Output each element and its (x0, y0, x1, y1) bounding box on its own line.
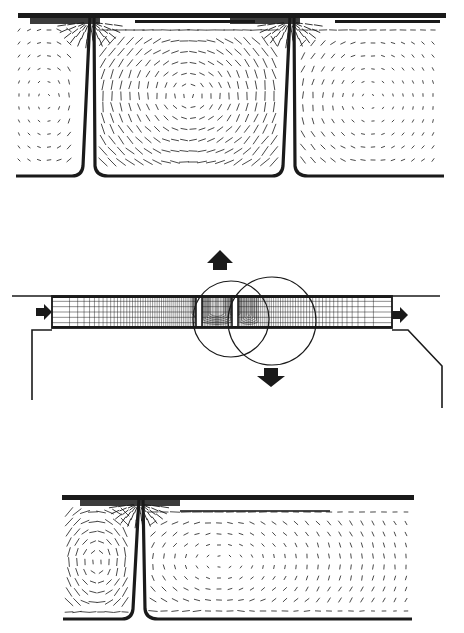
velocity-vector (250, 611, 255, 612)
velocity-vector (332, 80, 334, 84)
velocity-vector (301, 66, 304, 72)
velocity-vector (206, 577, 209, 578)
velocity-vector (181, 63, 187, 64)
velocity-vector (237, 82, 238, 89)
velocity-vector (98, 591, 105, 593)
velocity-vector (135, 159, 143, 165)
velocity-vector (234, 159, 242, 165)
velocity-vector (383, 576, 384, 580)
velocity-vector (117, 558, 118, 565)
velocity-vector (306, 576, 307, 580)
velocity-vector (244, 136, 250, 143)
velocity-vector (254, 59, 258, 67)
velocity-vector (331, 158, 336, 162)
velocity-vector (312, 79, 314, 84)
velocity-vector (301, 53, 304, 60)
velocity-vector (197, 161, 206, 163)
velocity-vector (182, 84, 185, 86)
velocity-vector (199, 51, 206, 53)
velocity-vector (106, 590, 112, 594)
velocity-vector (218, 72, 221, 77)
velocity-vector (173, 587, 177, 590)
velocity-vector (173, 106, 176, 109)
velocity-vector (339, 598, 342, 602)
velocity-vector (149, 611, 157, 612)
velocity-vector (283, 522, 287, 525)
velocity-vector (412, 42, 415, 44)
velocity-vector (273, 102, 274, 112)
velocity-vector (140, 508, 141, 514)
velocity-vector (38, 120, 40, 121)
velocity-vector (138, 104, 141, 110)
velocity-vector (261, 158, 270, 165)
velocity-vector (111, 81, 113, 90)
velocity-vector (68, 119, 69, 123)
velocity-vector (73, 611, 81, 612)
velocity-vector (342, 106, 343, 109)
velocity-vector (284, 543, 286, 546)
velocity-vector (67, 145, 70, 149)
velocity-vector (145, 137, 151, 142)
velocity-vector (263, 59, 267, 68)
velocity-vector (239, 588, 243, 590)
velocity-vector (351, 42, 355, 44)
cavity-mesh-loop (248, 298, 250, 317)
velocity-vector (402, 120, 403, 122)
velocity-vector (362, 576, 363, 580)
velocity-vector (432, 133, 433, 136)
velocity-vector (343, 93, 344, 96)
velocity-vector (72, 29, 77, 33)
velocity-vector (101, 124, 104, 134)
velocity-vector (311, 53, 315, 58)
bottom-vector-field-panel (62, 495, 414, 619)
velocity-vector (383, 532, 385, 536)
velocity-vector (285, 26, 287, 32)
velocity-vector (77, 558, 78, 565)
velocity-vector (206, 161, 215, 163)
velocity-vector (332, 119, 334, 123)
velocity-vector (208, 138, 215, 141)
velocity-vector (156, 514, 162, 519)
velocity-vector (98, 541, 103, 543)
velocity-vector (123, 538, 128, 546)
velocity-vector (333, 93, 334, 97)
velocity-vector (76, 568, 78, 575)
velocity-vector (58, 133, 61, 135)
velocity-vector (37, 29, 40, 30)
velocity-vector (234, 148, 242, 153)
velocity-vector (90, 591, 97, 593)
velocity-vector (153, 149, 161, 153)
velocity-vector (119, 70, 122, 78)
velocity-vector (107, 580, 112, 585)
velocity-vector (422, 42, 425, 44)
velocity-vector (100, 48, 107, 56)
velocity-vector (193, 610, 201, 611)
velocity-vector (384, 554, 385, 558)
velocity-vector (251, 555, 252, 557)
top-wall (62, 495, 414, 500)
velocity-vector (331, 145, 335, 148)
velocity-vector (306, 587, 308, 591)
velocity-vector (405, 598, 407, 601)
velocity-vector (175, 554, 176, 558)
velocity-vector (48, 82, 50, 83)
velocity-vector (48, 69, 51, 70)
velocity-vector (392, 120, 394, 122)
velocity-vector (285, 565, 286, 568)
velocity-vector (351, 133, 354, 135)
velocity-vector (116, 568, 117, 575)
velocity-vector (361, 532, 363, 536)
velocity-vector (148, 93, 149, 99)
velocity-vector (392, 68, 394, 70)
velocity-vector (413, 94, 414, 97)
up-arrow-icon (207, 250, 233, 270)
velocity-vector (350, 543, 352, 547)
velocity-vector (183, 599, 188, 601)
velocity-vector (361, 43, 365, 44)
velocity-vector (68, 568, 71, 577)
velocity-vector (372, 598, 374, 602)
velocity-vector (382, 133, 385, 134)
velocity-vector (199, 128, 205, 130)
inlet-arrow-icon (36, 304, 52, 320)
velocity-vector (405, 521, 407, 524)
